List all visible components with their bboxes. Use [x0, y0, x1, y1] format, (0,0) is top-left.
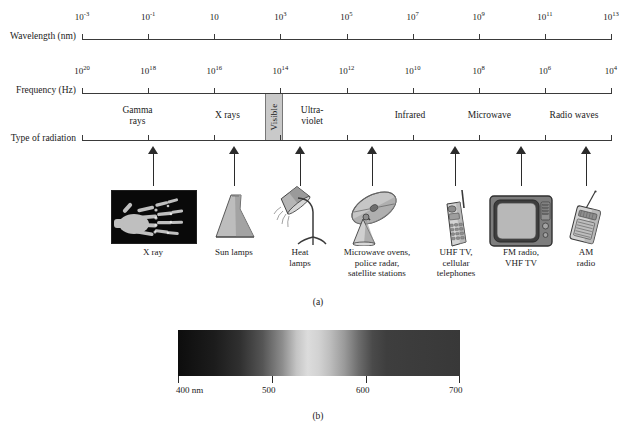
radiation-band-label: Gammarays [122, 105, 152, 126]
source-arrow [367, 146, 377, 186]
spectrum-tick-label: 400 nm [176, 385, 203, 395]
panel-b-label: (b) [312, 411, 323, 421]
source-caption: X ray [143, 247, 163, 258]
frequency-tick [413, 88, 414, 94]
wavelength-tick [280, 34, 281, 40]
wavelength-tick-label: 10 [210, 12, 219, 22]
frequency-tick-label: 1016 [206, 66, 222, 76]
frequency-tick-label: 1018 [140, 66, 156, 76]
spectrum-tick [272, 376, 273, 383]
radiation-band-label: Infrared [395, 110, 426, 121]
arrow-shaft [586, 152, 587, 186]
portable-radio-illustration [566, 186, 606, 246]
frequency-tick-label: 1012 [339, 66, 355, 76]
source-caption: AMradio [577, 247, 596, 268]
wavelength-tick-label: 109 [473, 12, 485, 22]
frequency-tick [82, 88, 83, 94]
source-arrow [148, 146, 158, 186]
frequency-tick-label: 104 [605, 66, 617, 76]
arrow-shaft [300, 152, 301, 186]
wavelength-tick [479, 34, 480, 40]
cell-phone-icon [438, 186, 472, 248]
frequency-tick [611, 88, 612, 94]
arrow-shaft [372, 152, 373, 186]
wavelength-tick-label: 10-1 [141, 12, 156, 22]
source-arrow [450, 146, 460, 186]
television-illustration [489, 195, 553, 247]
wavelength-tick-label: 107 [406, 12, 418, 22]
source-arrow [581, 146, 591, 186]
cell-phone-illustration [438, 186, 472, 248]
radiation-band-label: Ultra-violet [301, 105, 324, 126]
radiation-tick [413, 135, 414, 141]
spectrum-tick [178, 376, 179, 383]
wavelength-tick [545, 34, 546, 40]
wavelength-axis-label: Wavelength (nm) [0, 31, 76, 41]
satellite-dish-icon [340, 186, 404, 246]
radiation-tick [347, 135, 348, 141]
spectrum-tick [459, 376, 460, 383]
radiation-band-label: Microwave [468, 110, 511, 121]
panel-a-label: (a) [313, 297, 324, 307]
wavelength-tick [148, 34, 149, 40]
spectrum-tick-label: 500 [262, 385, 276, 395]
arrow-shaft [455, 152, 456, 186]
wavelength-tick-label: 10-3 [75, 12, 90, 22]
frequency-tick [479, 88, 480, 94]
heat-lamp-illustration [272, 185, 328, 245]
source-caption: FM radio,VHF TV [503, 247, 539, 268]
sun-lamp-icon [211, 193, 257, 241]
wavelength-tick-label: 1013 [603, 12, 619, 22]
wavelength-tick [413, 34, 414, 40]
frequency-tick-label: 1010 [405, 66, 421, 76]
source-arrow [295, 146, 305, 186]
wavelength-tick [214, 34, 215, 40]
frequency-tick [347, 88, 348, 94]
wavelength-tick-label: 103 [274, 12, 286, 22]
radiation-tick [280, 135, 281, 141]
source-arrow [516, 146, 526, 186]
radiation-band-label: Radio waves [550, 110, 599, 121]
wavelength-tick [82, 34, 83, 40]
source-caption: Microwave ovens,police radar,satellite s… [344, 247, 410, 279]
wavelength-tick-label: 105 [340, 12, 352, 22]
frequency-tick-label: 108 [473, 66, 485, 76]
frequency-axis-label: Frequency (Hz) [0, 85, 76, 95]
arrow-shaft [234, 152, 235, 186]
spectrum-tick [366, 376, 367, 383]
frequency-tick-label: 1014 [273, 66, 289, 76]
hand-xray-photo [111, 190, 197, 244]
source-arrow [229, 146, 239, 186]
radiation-tick [479, 135, 480, 141]
frequency-tick-label: 106 [539, 66, 551, 76]
radiation-tick [214, 135, 215, 141]
wavelength-tick [347, 34, 348, 40]
radiation-tick [611, 135, 612, 141]
radiation-axis-label: Type of radiation [0, 133, 76, 143]
spectrum-tick-label: 700 [449, 385, 463, 395]
wavelength-tick-label: 1011 [537, 12, 552, 22]
sun-lamp-illustration [211, 193, 257, 241]
portable-radio-icon [566, 186, 606, 246]
em-spectrum-figure: Wavelength (nm) 10-310-11010310510710910… [0, 0, 636, 431]
satellite-dish-illustration [340, 186, 404, 246]
frequency-tick [545, 88, 546, 94]
visible-band-box: Visible [265, 94, 283, 140]
radiation-tick [545, 135, 546, 141]
television-icon [489, 195, 553, 247]
source-caption: Heatlamps [289, 247, 311, 268]
radiation-tick [82, 135, 83, 141]
visible-spectrum-band [178, 330, 460, 376]
hand-xray-icon [112, 191, 196, 243]
heat-lamp-icon [272, 185, 328, 245]
visible-band-label: Visible [269, 104, 279, 131]
spectrum-tick-label: 600 [356, 385, 370, 395]
frequency-tick-label: 1020 [74, 66, 90, 76]
frequency-tick [214, 88, 215, 94]
frequency-tick [148, 88, 149, 94]
arrow-shaft [521, 152, 522, 186]
wavelength-tick [611, 34, 612, 40]
arrow-shaft [153, 152, 154, 186]
radiation-tick [148, 135, 149, 141]
source-caption: UHF TV,cellulartelephones [437, 247, 476, 279]
